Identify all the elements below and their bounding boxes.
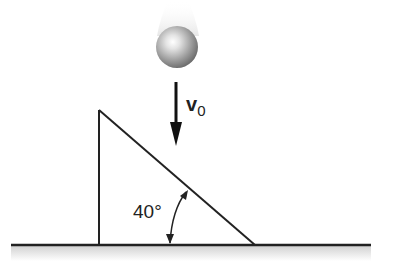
ball-sphere: [156, 26, 198, 68]
physics-diagram: v0 40°: [0, 0, 395, 261]
angle-indicator: 40°: [133, 190, 188, 244]
velocity-arrow-head: [170, 122, 182, 146]
velocity-label: v0: [186, 93, 205, 119]
ball: [156, 0, 199, 68]
ground-shade: [11, 245, 371, 261]
velocity-arrow: v0: [170, 82, 205, 146]
angle-arrowhead-bottom: [166, 234, 174, 244]
angle-label: 40°: [133, 201, 162, 222]
